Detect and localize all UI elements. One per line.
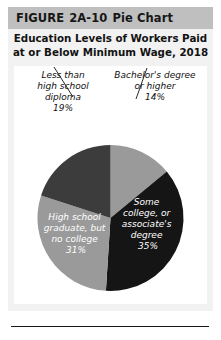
label-high-school-l1: High school (48, 212, 101, 222)
figure-title: Pie Chart (112, 11, 173, 25)
label-high-school-l4: 31% (66, 245, 86, 255)
label-high-school-l3: no college (51, 234, 98, 244)
label-high-school-l2: graduate, but (44, 223, 106, 233)
figure-header-bar: FIGURE2A-10Pie Chart (8, 7, 213, 29)
figure-container: FIGURE2A-10Pie Chart Education Levels of… (0, 0, 221, 340)
figure-number: 2A-10 (69, 11, 107, 25)
label-some-college-l4: degree (131, 230, 163, 240)
chart-subtitle: Education Levels of Workers Paid at or B… (8, 32, 213, 59)
label-less-than-hs-l3: diploma (22, 92, 104, 103)
figure-card: FIGURE2A-10Pie Chart Education Levels of… (8, 7, 213, 311)
figure-label: FIGURE (16, 11, 64, 25)
chart-subtitle-line1: Education Levels of Workers Paid (8, 32, 213, 46)
label-some-college-l2: college, or (123, 208, 171, 218)
figure-header: FIGURE2A-10Pie Chart (8, 11, 173, 25)
label-less-than-hs-l1: Less than (22, 70, 104, 81)
label-bachelors-l1: Bachelor's degree (105, 70, 205, 81)
label-bachelors-l3: 14% (105, 92, 205, 103)
bottom-divider (11, 326, 209, 327)
label-less-than-hs-l2: high school (22, 81, 104, 92)
label-bachelors-l2: or higher (105, 81, 205, 92)
label-some-college-l1: Some (134, 197, 160, 207)
label-some-college-l5: 35% (138, 241, 158, 251)
label-less-than-hs-l4: 19% (22, 103, 104, 114)
label-some-college-l3: associate's (122, 219, 172, 229)
pie-chart-panel: High school graduate, but no college 31%… (14, 66, 207, 304)
label-less-than-hs: Less than high school diploma 19% (22, 70, 104, 114)
chart-subtitle-line2: at or Below Minimum Wage, 2018 (8, 46, 213, 60)
label-bachelors: Bachelor's degree or higher 14% (105, 70, 205, 103)
